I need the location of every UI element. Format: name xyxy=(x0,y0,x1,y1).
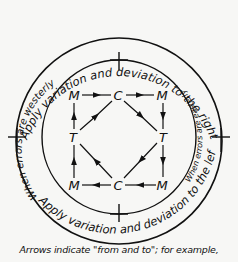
arrow-t-to-c-diag xyxy=(80,101,112,130)
arrow-c-to-t-diag-lower xyxy=(80,144,112,178)
node-t-right: T xyxy=(159,130,168,145)
arrow-group xyxy=(74,95,163,185)
node-c-top: C xyxy=(113,88,123,103)
caption: Arrows indicate "from and to"; for examp… xyxy=(0,244,238,255)
node-c-bottom: C xyxy=(113,178,123,193)
bottom-cross-mark xyxy=(110,204,128,222)
arrow-c-to-t-diag xyxy=(124,101,157,131)
node-m-bottom-left: M xyxy=(68,178,79,193)
node-t-left: T xyxy=(69,130,78,145)
arrow-t-to-c-diag-lower xyxy=(124,143,157,178)
compass-error-diagram: Apply variation and deviation to the rig… xyxy=(0,0,238,262)
node-m-top-right: M xyxy=(156,88,167,103)
node-m-top-left: M xyxy=(68,88,79,103)
node-m-bottom-right: M xyxy=(156,178,167,193)
